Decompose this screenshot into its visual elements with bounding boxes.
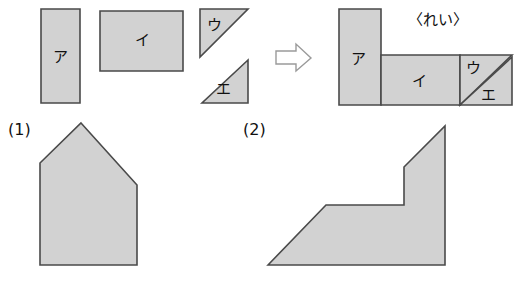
example-piece-e-label: エ	[481, 88, 496, 103]
example-piece-u-label: ウ	[466, 61, 481, 76]
question-1-shape	[40, 123, 137, 265]
example-title: 〈れい〉	[408, 13, 468, 28]
shapes-canvas	[0, 0, 523, 281]
question-2-number: (2)	[243, 122, 266, 138]
question-2-shape	[268, 126, 445, 265]
arrow-right-outline-icon	[276, 44, 311, 71]
piece-u-label: ウ	[207, 18, 222, 33]
piece-i-label: イ	[135, 33, 150, 48]
question-1-number: (1)	[8, 122, 31, 138]
example-piece-a-label: ア	[351, 52, 366, 67]
worksheet-page: ア イ ウ エ 〈れい〉 ア イ ウ エ (1) (2)	[0, 0, 523, 281]
piece-e-label: エ	[216, 82, 231, 97]
example-piece-i-label: イ	[412, 74, 427, 89]
piece-a-label: ア	[53, 50, 68, 65]
